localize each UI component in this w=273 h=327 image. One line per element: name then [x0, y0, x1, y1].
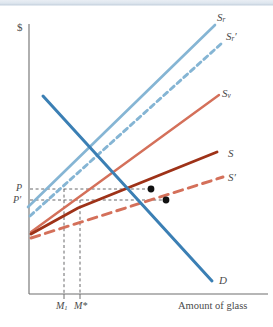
guide-lines — [30, 189, 166, 294]
x-tick-label-m1: M1 — [56, 301, 68, 312]
marker-equilibrium-p — [148, 186, 155, 193]
x-axis-label: Amount of glass — [178, 301, 247, 312]
y-tick-label-p-prime: P′ — [13, 195, 21, 205]
curve-label-s-r: Sr — [217, 12, 225, 25]
curve-label-s-r-prime-mark: ′ — [234, 30, 236, 42]
x-tick-label-m1-sub: 1 — [64, 304, 67, 311]
chart-canvas — [0, 0, 273, 327]
curve-label-d: D — [219, 275, 227, 286]
curve-label-s-r-prime: Sr′ — [226, 31, 237, 44]
y-axis-label: $ — [17, 22, 23, 33]
curve-label-s-prime: S′ — [228, 172, 236, 183]
curve-d — [43, 96, 212, 281]
x-tick-label-mstar: M* — [74, 301, 87, 311]
marker-equilibrium-p-prime — [163, 197, 170, 204]
curve-label-s-r-sub: r — [223, 16, 226, 24]
curve-label-s: S — [228, 148, 234, 159]
y-tick-label-p: P — [16, 183, 22, 193]
supply-demand-figure: $ Sr Sr′ Sv S S′ D P P′ M1 M* Amount of … — [0, 0, 273, 327]
x-tick-marks — [64, 294, 80, 299]
curve-s-r — [28, 25, 215, 207]
curve-label-s-v-sub: v — [228, 92, 231, 100]
curve-label-s-v: Sv — [222, 88, 231, 101]
axes — [29, 24, 268, 294]
curves — [28, 25, 223, 281]
